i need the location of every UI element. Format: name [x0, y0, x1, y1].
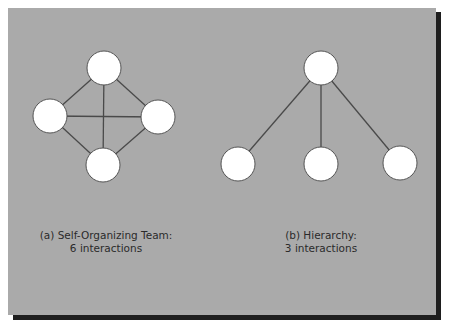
- caption-hierarchy: (b) Hierarchy: 3 interactions: [285, 229, 357, 254]
- node-b-child2: [304, 147, 338, 181]
- node-a-right: [141, 100, 175, 134]
- edge-b-root-child3: [321, 68, 400, 163]
- node-b-child1: [221, 147, 255, 181]
- node-a-left: [33, 99, 67, 133]
- edge-b-root-child1: [238, 68, 321, 164]
- caption-self-organizing-team: (a) Self-Organizing Team: 6 interactions: [40, 229, 173, 254]
- node-b-child3: [383, 146, 417, 180]
- caption-b-title: (b) Hierarchy:: [285, 229, 357, 242]
- node-a-bottom: [86, 148, 120, 182]
- node-b-root: [304, 51, 338, 85]
- caption-a-count: 6 interactions: [40, 242, 173, 255]
- caption-b-count: 3 interactions: [285, 242, 357, 255]
- node-a-top: [87, 51, 121, 85]
- caption-a-title: (a) Self-Organizing Team:: [40, 229, 173, 242]
- network-diagrams: [0, 0, 450, 325]
